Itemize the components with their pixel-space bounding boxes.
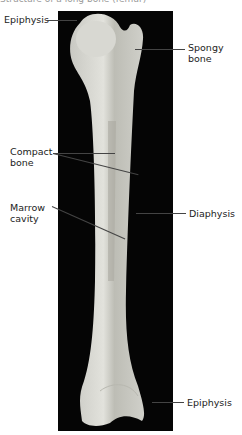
label-spongy-line2: bone xyxy=(188,53,212,64)
label-compact-line1: Compact xyxy=(10,146,53,157)
label-marrow-line2: cavity xyxy=(10,213,39,224)
label-compact-line2: bone xyxy=(10,157,34,168)
leader-spongy xyxy=(135,49,185,50)
leader-epiphysis-top xyxy=(47,20,77,21)
label-epiphysis-bottom: Epiphysis xyxy=(187,397,232,408)
label-marrow-line1: Marrow xyxy=(10,202,45,213)
leader-compact-1 xyxy=(53,153,115,154)
label-spongy-line1: Spongy xyxy=(188,42,224,53)
femur-image xyxy=(58,11,173,431)
label-epiphysis-top: Epiphysis xyxy=(4,14,49,25)
photo-panel xyxy=(58,11,173,431)
leader-epiphysis-bottom xyxy=(152,402,184,403)
label-diaphysis: Diaphysis xyxy=(189,208,235,219)
leader-diaphysis xyxy=(136,213,186,214)
figure-caption: Structure of a long bone (femur) xyxy=(0,0,146,4)
